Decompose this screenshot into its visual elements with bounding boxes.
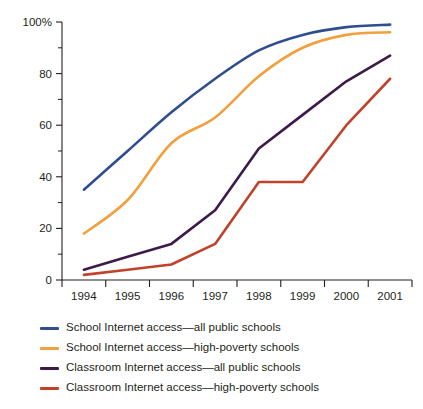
legend-item-label: School Internet access—all public school… <box>66 322 281 334</box>
legend-item-label: School Internet access—high-poverty scho… <box>66 342 299 354</box>
legend-item: School Internet access—high-poverty scho… <box>40 338 423 358</box>
legend-item-label: Classroom Internet access—all public sch… <box>66 362 301 374</box>
x-tick-label: 1997 <box>202 290 228 300</box>
chart-plot-area: 020406080100% 19941995199619971998199920… <box>0 0 423 300</box>
legend-item: School Internet access—all public school… <box>40 318 423 338</box>
x-tick-label: 1994 <box>71 290 97 300</box>
data-series-group <box>84 25 390 275</box>
legend-color-swatch <box>40 327 59 330</box>
y-tick-label: 100% <box>23 16 52 28</box>
y-tick-label: 80 <box>39 68 52 80</box>
chart-svg: 020406080100% 19941995199619971998199920… <box>0 0 423 300</box>
legend-item: Classroom Internet access—all public sch… <box>40 358 423 378</box>
series-line <box>84 79 390 275</box>
y-tick-label: 20 <box>39 222 52 234</box>
legend-color-swatch <box>40 387 59 390</box>
y-axis: 020406080100% <box>23 16 62 286</box>
y-tick-label: 60 <box>39 119 52 131</box>
series-line <box>84 25 390 190</box>
legend-color-swatch <box>40 347 59 350</box>
x-tick-label: 1999 <box>290 290 316 300</box>
x-tick-label: 1995 <box>115 290 141 300</box>
series-line <box>84 56 390 270</box>
y-tick-label: 40 <box>39 171 52 183</box>
legend-item-label: Classroom Internet access—high-poverty s… <box>66 382 319 394</box>
x-tick-label: 2000 <box>334 290 360 300</box>
x-tick-label: 2001 <box>377 290 403 300</box>
x-tick-label: 1998 <box>246 290 272 300</box>
x-axis: 19941995199619971998199920002001 <box>62 280 412 300</box>
internet-access-line-chart-figure: 020406080100% 19941995199619971998199920… <box>0 0 423 409</box>
chart-legend: School Internet access—all public school… <box>0 318 423 409</box>
legend-color-swatch <box>40 367 59 370</box>
legend-item: Classroom Internet access—high-poverty s… <box>40 378 423 398</box>
x-tick-label: 1996 <box>159 290 185 300</box>
y-tick-label: 0 <box>46 274 52 286</box>
